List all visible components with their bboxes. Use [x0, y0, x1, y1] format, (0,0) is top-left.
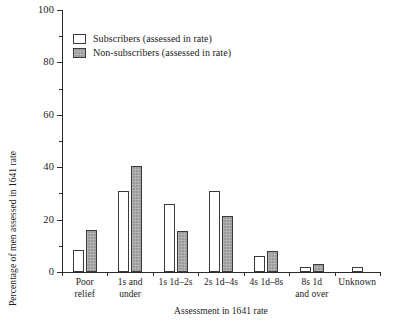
x-tick-mark: [335, 272, 336, 276]
x-axis-labels: Poorrelief1s andunder1s 1d–2s2s 1d–4s4s …: [62, 277, 380, 300]
x-axis-label: 1s 1d–2s: [153, 277, 198, 300]
x-tick-mark: [380, 272, 381, 276]
x-axis-label-line1: Poor: [76, 277, 94, 287]
bar-subscribers: [209, 191, 220, 272]
x-axis-label: 8s 1dand over: [289, 277, 334, 300]
bar-non-subscribers: [222, 216, 233, 272]
x-axis-label-line1: 1s and: [118, 277, 143, 287]
x-axis-ticks: [62, 272, 380, 273]
x-axis-title: Assessment in 1641 rate: [62, 306, 380, 316]
x-axis-label-line1: 2s 1d–4s: [204, 277, 238, 287]
x-axis-label-line1: 1s 1d–2s: [159, 277, 193, 287]
x-tick-mark: [198, 272, 199, 276]
legend-item-non-subscribers: Non-subscribers (assessed in rate): [73, 47, 231, 58]
legend-swatch-subscribers: [73, 34, 86, 44]
bar-subscribers: [254, 256, 265, 272]
x-axis-label: Unknown: [335, 277, 380, 300]
x-axis-label-line1: Unknown: [338, 277, 376, 287]
bar-group: [335, 10, 380, 272]
x-axis-label-line1: 4s 1d–8s: [249, 277, 283, 287]
bar-subscribers: [118, 191, 129, 272]
x-axis-label: 2s 1d–4s: [198, 277, 243, 300]
bar-non-subscribers: [313, 264, 324, 272]
legend-swatch-non-subscribers: [73, 48, 86, 58]
x-tick-mark: [289, 272, 290, 276]
x-axis-label: Poorrelief: [62, 277, 107, 300]
y-tick-label: 20: [43, 212, 54, 227]
x-axis-label: 4s 1d–8s: [244, 277, 289, 300]
y-axis-title: Percentage of men assessed in 1641 rate: [8, 106, 18, 306]
bar-subscribers: [164, 204, 175, 272]
y-tick-label: 100: [38, 2, 54, 17]
x-axis-label-line2: under: [107, 289, 152, 301]
x-axis-label-line2: relief: [62, 289, 107, 301]
bar-subscribers: [73, 250, 84, 272]
bar-group: [289, 10, 334, 272]
y-tick-label: 0: [49, 264, 54, 279]
bar-group: [244, 10, 289, 272]
y-tick-label: 80: [43, 54, 54, 69]
bar-non-subscribers: [131, 166, 142, 272]
x-axis-label-line2: and over: [289, 289, 334, 301]
x-tick-mark: [107, 272, 108, 276]
x-tick-mark: [62, 272, 63, 276]
x-tick-mark: [153, 272, 154, 276]
legend-label-non-subscribers: Non-subscribers (assessed in rate): [93, 47, 231, 58]
legend-label-subscribers: Subscribers (assessed in rate): [93, 33, 212, 44]
bar-non-subscribers: [267, 251, 278, 272]
bar-non-subscribers: [177, 231, 188, 272]
y-tick-label: 40: [43, 159, 54, 174]
chart-legend: Subscribers (assessed in rate) Non-subsc…: [73, 33, 231, 58]
y-tick-label: 60: [43, 107, 54, 122]
legend-item-subscribers: Subscribers (assessed in rate): [73, 33, 231, 44]
bar-non-subscribers: [86, 230, 97, 272]
bar-chart: Percentage of men assessed in 1641 rate …: [0, 0, 397, 327]
y-axis-title-wrap: Percentage of men assessed in 1641 rate: [14, 258, 15, 259]
x-tick-mark: [244, 272, 245, 276]
x-axis-label-line1: 8s 1d: [302, 277, 323, 287]
x-axis-label: 1s andunder: [107, 277, 152, 300]
